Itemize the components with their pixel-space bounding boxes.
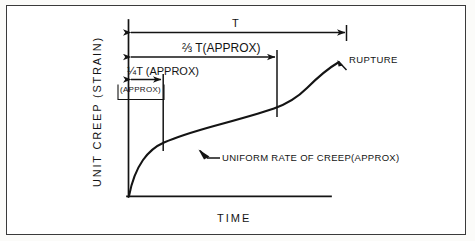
dimension-label-quarter-approx: (APPROX) [120,86,161,94]
y-axis-title: UNIT CREEP (STRAIN) [92,12,103,212]
annotation-rupture: RUPTURE [349,55,398,65]
fraction-two-thirds: ⅔ T(APPROX) [182,41,260,55]
creep-curve-path [129,62,339,196]
creep-curve-figure: T ⅔ T(APPROX) ¼T (APPROX) (APPROX) RUPTU… [0,0,475,241]
diagram-drawing [0,0,475,241]
dimension-label-quarter-t: ¼T (APPROX) [127,66,199,77]
dimension-label-two-thirds-t: ⅔ T(APPROX) [182,42,260,54]
x-axis-title: TIME [217,213,251,224]
fraction-quarter: ¼T (APPROX) [127,65,199,77]
rupture-leader-arrowhead [338,60,344,67]
dimension-label-total-t: T [232,18,239,29]
annotation-uniform-rate: UNIFORM RATE OF CREEP(APPROX) [222,153,399,163]
creep-curve [129,62,339,196]
